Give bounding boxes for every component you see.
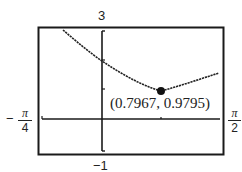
function-curve <box>63 30 219 91</box>
graph-canvas <box>0 0 242 172</box>
y-min-label: −1 <box>93 159 108 172</box>
x-max-numerator: π <box>228 107 241 121</box>
x-min-numerator: π <box>18 107 32 121</box>
minimum-point-marker <box>157 87 165 95</box>
minimum-point-label: (0.7967, 0.9795) <box>110 95 210 112</box>
y-max-label: 3 <box>98 9 105 22</box>
x-min-fraction: π 4 <box>18 107 32 134</box>
x-min-denominator: 4 <box>18 121 32 134</box>
x-min-sign: − <box>6 112 14 125</box>
x-max-label: π 2 <box>228 107 241 134</box>
x-max-denominator: 2 <box>228 121 241 134</box>
viewing-window-frame <box>39 28 224 155</box>
